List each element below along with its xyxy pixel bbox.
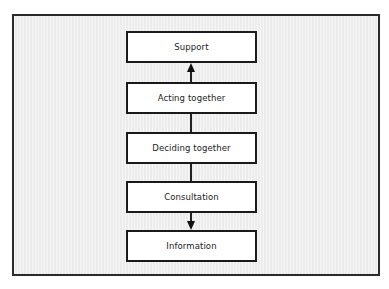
node-information: Information: [126, 230, 257, 262]
node-label: Acting together: [158, 93, 226, 103]
node-label: Information: [166, 241, 216, 251]
node-deciding-together: Deciding together: [126, 132, 257, 164]
node-label: Deciding together: [152, 143, 230, 153]
connector-deciding-consultation: [190, 164, 192, 181]
node-label: Consultation: [164, 192, 219, 202]
arrow-down-icon: [187, 221, 195, 230]
connector-deciding-acting: [190, 114, 192, 132]
arrow-up-icon: [187, 63, 195, 72]
node-consultation: Consultation: [126, 181, 257, 213]
node-acting-together: Acting together: [126, 82, 257, 114]
node-support: Support: [126, 31, 257, 63]
node-label: Support: [174, 42, 208, 52]
